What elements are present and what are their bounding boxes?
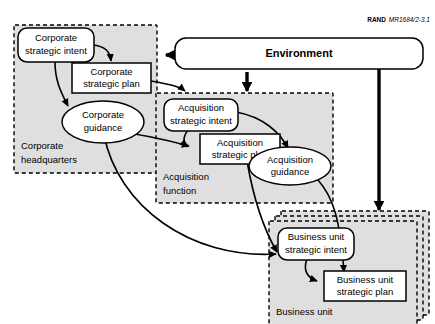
- diagram-canvas: Environment Corporate strategic intent C…: [0, 0, 435, 324]
- label-business-unit: Business unit: [276, 306, 333, 317]
- node-corporate-strategic-intent[interactable]: Corporate strategic intent: [18, 28, 94, 62]
- credit-source-label: RAND: [367, 16, 386, 23]
- business-unit-strategic-plan-label-line1: Business unit: [337, 274, 394, 285]
- acquisition-function-label-line2: function: [163, 185, 196, 196]
- acquisition-function-label-line1: Acquisition: [163, 171, 209, 182]
- acquisition-strategic-intent-label-line2: strategic intent: [170, 115, 232, 126]
- node-corporate-guidance[interactable]: Corporate guidance: [62, 101, 144, 143]
- node-business-unit-strategic-plan[interactable]: Business unit strategic plan: [324, 271, 406, 301]
- corporate-headquarters-label-line1: Corporate: [21, 140, 63, 151]
- acquisition-strategic-intent-label-line1: Acquisition: [178, 102, 224, 113]
- node-acquisition-strategic-intent[interactable]: Acquisition strategic intent: [164, 99, 238, 131]
- corporate-guidance-label-line1: Corporate: [82, 109, 124, 120]
- figure-credit: RAND MR1684/2-3.1: [367, 16, 430, 23]
- corporate-strategic-intent-label-line1: Corporate: [35, 32, 77, 43]
- corporate-strategic-plan-label-line2: strategic plan: [83, 78, 140, 89]
- business-unit-label-line1: Business unit: [276, 306, 333, 317]
- acquisition-guidance-label-line1: Acquisition: [267, 154, 313, 165]
- business-unit-strategic-intent-label-line2: strategic intent: [285, 244, 347, 255]
- strategic-cascade-diagram: Environment Corporate strategic intent C…: [0, 0, 435, 324]
- business-unit-strategic-intent-label-line1: Business unit: [288, 231, 345, 242]
- corporate-strategic-plan-label-line1: Corporate: [90, 66, 132, 77]
- node-environment[interactable]: Environment: [175, 38, 423, 69]
- environment-label: Environment: [265, 47, 333, 59]
- corporate-headquarters-label-line2: headquarters: [21, 154, 77, 165]
- acquisition-strategic-plan-label-line1: Acquisition: [217, 137, 263, 148]
- business-unit-strategic-plan-label-line2: strategic plan: [337, 286, 394, 297]
- node-corporate-strategic-plan[interactable]: Corporate strategic plan: [72, 63, 151, 93]
- node-acquisition-guidance[interactable]: Acquisition guidance: [249, 147, 331, 185]
- credit-id-label: MR1684/2-3.1: [389, 16, 431, 23]
- corporate-guidance-label-line2: guidance: [84, 122, 123, 133]
- node-business-unit-strategic-intent[interactable]: Business unit strategic intent: [278, 228, 354, 260]
- corporate-strategic-intent-label-line2: strategic intent: [25, 45, 87, 56]
- acquisition-guidance-label-line2: guidance: [271, 166, 310, 177]
